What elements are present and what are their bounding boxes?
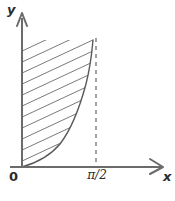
y-axis-label: y bbox=[7, 3, 15, 16]
origin-label: 0 bbox=[9, 170, 18, 183]
figure-container: y x 0 π/2 bbox=[0, 0, 175, 201]
x-tick-label-pi-over-2: π/2 bbox=[82, 169, 112, 181]
hatch-line bbox=[0, 109, 110, 165]
function-curve bbox=[22, 40, 93, 167]
x-axis-label: x bbox=[163, 170, 171, 183]
